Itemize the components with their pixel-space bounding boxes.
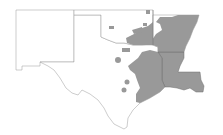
shaded-county <box>146 10 150 14</box>
shaded-county <box>122 48 130 52</box>
shaded-county <box>122 88 127 93</box>
distribution-map <box>0 0 223 135</box>
shaded-county <box>125 80 130 85</box>
shaded-county <box>109 26 114 29</box>
shaded-county <box>143 23 147 26</box>
state-louisiana <box>158 52 204 92</box>
shaded-county <box>115 57 121 63</box>
state-new-mexico <box>16 10 74 70</box>
